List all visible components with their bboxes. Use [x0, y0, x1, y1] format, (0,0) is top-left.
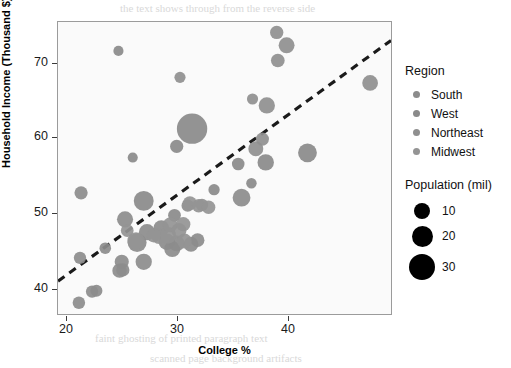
population-legend-swatch	[405, 254, 439, 280]
region-legend-item-midwest[interactable]: Midwest	[405, 142, 511, 161]
population-legend-item-20[interactable]: 20	[405, 222, 511, 250]
bleed-text-line: the text shows through from the reverse …	[120, 2, 315, 14]
data-point[interactable]	[233, 189, 251, 207]
data-point[interactable]	[128, 153, 138, 163]
data-point[interactable]	[74, 186, 87, 199]
data-point[interactable]	[177, 234, 192, 249]
data-point[interactable]	[208, 184, 219, 195]
y-tick-label: 50	[20, 205, 48, 219]
population-legend-label: 10	[442, 204, 455, 218]
population-legend-label: 20	[442, 229, 455, 243]
data-point[interactable]	[116, 263, 129, 276]
data-point[interactable]	[99, 242, 111, 254]
circle-icon	[413, 129, 420, 136]
population-legend-swatch	[405, 226, 439, 247]
population-legend-item-10[interactable]: 10	[405, 199, 511, 222]
region-legend-swatch	[405, 129, 427, 136]
region-legend-item-west[interactable]: West	[405, 104, 511, 123]
legend-area: Region SouthWestNortheastMidwest Populat…	[405, 64, 511, 283]
y-tick-mark	[52, 63, 57, 64]
population-legend-item-30[interactable]: 30	[405, 250, 511, 283]
region-legend-title: Region	[405, 64, 511, 78]
data-points-layer	[58, 22, 391, 314]
data-point[interactable]	[279, 37, 295, 53]
series-northeast	[174, 26, 378, 211]
region-legend-swatch	[405, 91, 427, 98]
data-point[interactable]	[247, 93, 258, 104]
data-point[interactable]	[271, 54, 285, 68]
x-tick-label: 40	[268, 322, 308, 336]
population-legend-rows: 102030	[405, 199, 511, 283]
data-point[interactable]	[74, 252, 86, 264]
data-point[interactable]	[174, 72, 185, 83]
data-point[interactable]	[113, 46, 123, 56]
region-legend-swatch	[405, 148, 427, 155]
data-point[interactable]	[258, 154, 274, 170]
region-legend: Region SouthWestNortheastMidwest	[405, 64, 511, 161]
y-tick-label: 60	[20, 129, 48, 143]
circle-icon	[413, 110, 420, 117]
x-tick-mark	[288, 316, 289, 321]
population-size-legend: Population (mil) 102030	[405, 178, 511, 283]
data-point[interactable]	[232, 158, 245, 171]
y-tick-label: 70	[20, 55, 48, 69]
x-tick-mark	[177, 316, 178, 321]
y-axis-title: Household Income (Thousand $)	[0, 0, 12, 168]
circle-icon	[413, 91, 420, 98]
data-point[interactable]	[177, 114, 207, 144]
y-tick-label: 40	[20, 281, 48, 295]
region-legend-label: Midwest	[431, 145, 475, 159]
region-legend-label: South	[431, 88, 462, 102]
data-point[interactable]	[170, 140, 183, 153]
plot-panel	[57, 21, 392, 315]
x-axis-title: College %	[0, 344, 449, 356]
region-legend-rows: SouthWestNortheastMidwest	[405, 85, 511, 161]
data-point[interactable]	[136, 254, 152, 270]
circle-icon	[414, 203, 430, 219]
circle-icon	[409, 254, 435, 280]
data-point[interactable]	[73, 297, 85, 309]
population-legend-title: Population (mil)	[405, 178, 511, 192]
region-legend-item-northeast[interactable]: Northeast	[405, 123, 511, 142]
data-point[interactable]	[256, 133, 269, 146]
region-legend-label: West	[431, 107, 458, 121]
region-legend-label: Northeast	[431, 126, 483, 140]
data-point[interactable]	[91, 285, 103, 297]
y-tick-mark	[52, 289, 57, 290]
y-tick-mark	[52, 213, 57, 214]
data-point[interactable]	[246, 178, 256, 188]
scatter-chart: the text shows through from the reverse …	[0, 0, 511, 368]
data-point[interactable]	[147, 228, 161, 242]
x-tick-label: 20	[46, 322, 86, 336]
x-tick-mark	[66, 316, 67, 321]
data-point[interactable]	[298, 143, 317, 162]
data-point[interactable]	[176, 217, 190, 231]
circle-icon	[412, 226, 433, 247]
data-point[interactable]	[362, 75, 378, 91]
y-tick-mark	[52, 137, 57, 138]
data-point[interactable]	[270, 26, 283, 39]
data-point[interactable]	[202, 201, 216, 215]
circle-icon	[413, 148, 420, 155]
data-point[interactable]	[134, 191, 154, 211]
series-west	[113, 46, 316, 222]
population-legend-swatch	[405, 203, 439, 219]
population-legend-label: 30	[442, 260, 455, 274]
region-legend-swatch	[405, 110, 427, 117]
series-south	[73, 186, 251, 309]
data-point[interactable]	[191, 233, 205, 247]
x-tick-label: 30	[157, 322, 197, 336]
data-point[interactable]	[259, 97, 275, 113]
data-point[interactable]	[127, 232, 144, 249]
region-legend-item-south[interactable]: South	[405, 85, 511, 104]
